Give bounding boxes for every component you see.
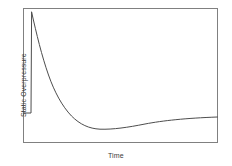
chart-figure: Static Overpressure Time bbox=[0, 0, 232, 166]
x-axis-label: Time bbox=[108, 152, 124, 159]
shock-front-rise bbox=[31, 12, 32, 113]
plot-frame bbox=[24, 9, 218, 143]
plot-area-svg bbox=[0, 0, 232, 166]
y-axis-label: Static Overpressure bbox=[20, 53, 27, 117]
